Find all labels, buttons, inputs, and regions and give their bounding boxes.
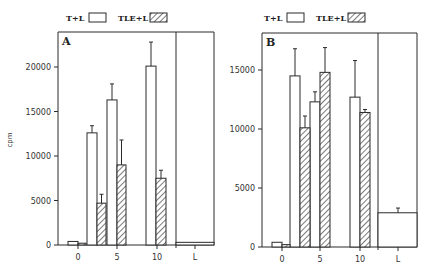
legend-label-t-l: T+L — [264, 13, 283, 23]
bar-tle-l — [78, 243, 86, 245]
x-tick-label: L — [193, 253, 198, 262]
legend-label-t-l: T+L — [66, 13, 85, 23]
panel-a: T+LTLE+LA050001000015000200000510Lcpm — [6, 13, 214, 262]
legend: T+LTLE+L — [264, 13, 365, 23]
bar-t-l — [107, 100, 117, 245]
bar-control-l — [176, 242, 214, 245]
x-tick-label: L — [396, 255, 401, 264]
x-tick-label: 10 — [355, 255, 365, 264]
bar-t-l — [310, 102, 320, 247]
y-tick-label: 0 — [250, 243, 255, 252]
x-tick-label: 0 — [75, 253, 80, 262]
legend-swatch-hatched — [150, 13, 167, 22]
bar-tle-l — [156, 178, 166, 245]
y-tick-label: 20000 — [26, 63, 51, 72]
figure: T+LTLE+LA050001000015000200000510LcpmT+L… — [0, 0, 428, 272]
bar-t-l — [350, 97, 360, 247]
x-tick-label: 5 — [317, 255, 322, 264]
legend-swatch-open — [89, 13, 106, 22]
bar-chart-svg: T+LTLE+LA050001000015000200000510LcpmT+L… — [0, 0, 428, 272]
bar-t-l — [290, 76, 300, 247]
panels: T+LTLE+LA050001000015000200000510LcpmT+L… — [6, 13, 417, 264]
legend-label-tle-l: TLE+L — [118, 13, 148, 23]
bar-tle-l — [97, 203, 106, 245]
x-tick-label: 0 — [279, 255, 284, 264]
y-tick-label: 5000 — [235, 184, 255, 193]
bar-tle-l — [320, 72, 330, 247]
bar-tle-l — [360, 112, 370, 247]
panel-b: T+LTLE+LB0500010000150000510L — [230, 13, 417, 264]
x-tick-label: 10 — [152, 253, 162, 262]
y-tick-label: 5000 — [31, 197, 51, 206]
bar-tle-l — [282, 245, 290, 247]
bar-t-l — [272, 242, 282, 247]
legend-swatch-hatched — [348, 13, 365, 22]
panel-label: B — [266, 36, 275, 49]
y-tick-label: 10000 — [26, 152, 51, 161]
bar-tle-l — [300, 128, 310, 247]
bar-control-l — [378, 213, 417, 247]
bar-tle-l — [117, 165, 126, 245]
panel-label: A — [61, 35, 71, 48]
bar-t-l — [68, 241, 78, 245]
legend-swatch-open — [287, 13, 304, 22]
legend: T+LTLE+L — [66, 13, 167, 23]
y-tick-label: 15000 — [26, 108, 51, 117]
legend-label-tle-l: TLE+L — [316, 13, 346, 23]
y-axis-label: cpm — [6, 132, 14, 147]
y-tick-label: 10000 — [230, 125, 255, 134]
bar-t-l — [87, 133, 97, 245]
y-tick-label: 0 — [46, 241, 51, 250]
bar-t-l — [146, 66, 156, 245]
x-tick-label: 5 — [114, 253, 119, 262]
y-tick-label: 15000 — [230, 66, 255, 75]
